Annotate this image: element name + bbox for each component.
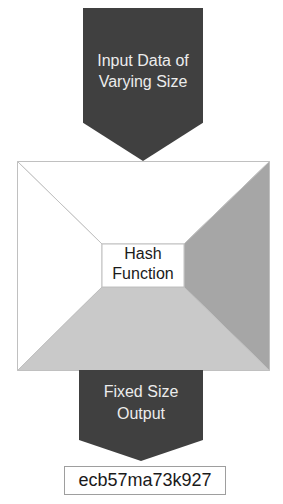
output-arrow-line2: Output [79, 403, 203, 425]
input-arrow-label: Input Data of Varying Size [83, 50, 203, 92]
hash-label-line2: Function [102, 264, 184, 284]
hash-function-diagram: Input Data of Varying Size Hash Function… [0, 0, 283, 504]
output-value-box: ecb57ma73k927 [64, 466, 226, 495]
input-arrow-line2: Varying Size [83, 71, 203, 92]
output-arrow-shape: Fixed Size Output [79, 370, 203, 461]
input-arrow-line1: Input Data of [83, 50, 203, 71]
output-arrow-label: Fixed Size Output [79, 381, 203, 425]
output-value-text: ecb57ma73k927 [78, 470, 211, 491]
hash-label-line1: Hash [102, 244, 184, 264]
input-arrow-shape: Input Data of Varying Size [83, 8, 203, 161]
hash-function-label: Hash Function [102, 244, 184, 284]
output-arrow-line1: Fixed Size [79, 381, 203, 403]
